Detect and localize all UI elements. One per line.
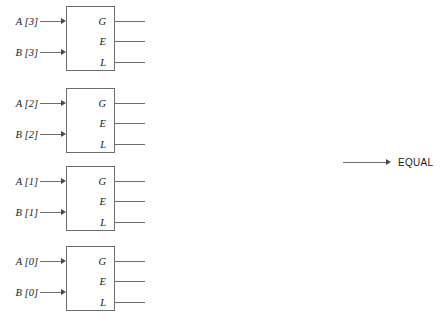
comparator-diagram: A [3] B [3] G E L A [2] B [2] G E L A [1… [0, 0, 440, 318]
wire-b3 [40, 52, 61, 53]
signal-label-b0: B [0] [4, 288, 38, 299]
port-label-l1: L [78, 218, 106, 229]
port-label-e2: E [78, 119, 106, 130]
arrow-icon-b0 [61, 289, 66, 295]
signal-label-a0: A [0] [4, 257, 38, 268]
wire-b0 [40, 292, 61, 293]
port-label-g1: G [78, 177, 106, 188]
signal-label-a1: A [1] [4, 177, 38, 188]
wire-out-e3 [115, 41, 145, 42]
arrow-icon-b1 [61, 209, 66, 215]
arrow-icon-a2 [61, 100, 66, 106]
wire-a0 [40, 261, 61, 262]
wire-a1 [40, 181, 61, 182]
wire-out-g0 [115, 261, 145, 262]
port-label-e3: E [78, 37, 106, 48]
port-label-l3: L [78, 58, 106, 69]
wire-a3 [40, 21, 61, 22]
wire-out-l0 [115, 302, 145, 303]
wire-out-e0 [115, 281, 145, 282]
port-label-g2: G [78, 99, 106, 110]
port-label-e0: E [78, 277, 106, 288]
arrow-icon-b3 [61, 49, 66, 55]
signal-label-b2: B [2] [4, 130, 38, 141]
port-label-e1: E [78, 197, 106, 208]
port-label-g3: G [78, 17, 106, 28]
signal-label-a2: A [2] [4, 99, 38, 110]
arrow-icon-a1 [61, 178, 66, 184]
wire-out-l1 [115, 222, 145, 223]
wire-a2 [40, 103, 61, 104]
arrow-icon-equal [386, 159, 391, 165]
port-label-g0: G [78, 257, 106, 268]
arrow-icon-b2 [61, 131, 66, 137]
wire-out-g2 [115, 103, 145, 104]
signal-label-b1: B [1] [4, 208, 38, 219]
wire-out-g1 [115, 181, 145, 182]
wire-out-l3 [115, 62, 145, 63]
port-label-l0: L [78, 298, 106, 309]
arrow-icon-a3 [61, 18, 66, 24]
wire-b1 [40, 212, 61, 213]
wire-b2 [40, 134, 61, 135]
port-label-l2: L [78, 140, 106, 151]
wire-equal-output [343, 162, 386, 163]
wire-out-l2 [115, 144, 145, 145]
wire-out-e1 [115, 201, 145, 202]
signal-label-a3: A [3] [4, 17, 38, 28]
arrow-icon-a0 [61, 258, 66, 264]
wire-out-e2 [115, 123, 145, 124]
signal-label-b3: B [3] [4, 48, 38, 59]
wire-out-g3 [115, 21, 145, 22]
equal-output-label: EQUAL [398, 158, 433, 168]
